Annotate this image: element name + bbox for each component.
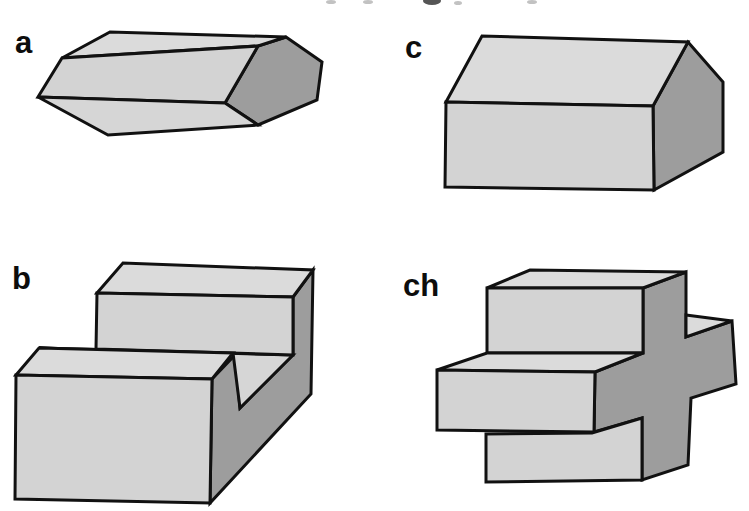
cross-prism-horizontal-front-face: [437, 370, 595, 432]
roof-prism: [445, 36, 723, 190]
cross-prism-vertical-upper-front-face: [487, 288, 643, 353]
notched-block-back-front-face: [96, 293, 293, 355]
notched-block-front-front-face: [15, 375, 212, 503]
crystal-forms-figure: a b c ch: [0, 0, 749, 511]
notched-block-back-top-face: [97, 263, 313, 297]
cropped-caption-artifact: [326, 0, 537, 5]
hexagonal-prism-lower-front-face: [38, 97, 258, 135]
cross-prism: [437, 270, 736, 482]
panel-label-b: b: [12, 263, 31, 294]
roof-prism-front-face: [445, 102, 654, 190]
notched-block: [15, 263, 313, 503]
panel-label-c: c: [405, 32, 422, 63]
roof-prism-roof-face: [446, 36, 688, 106]
shapes-canvas: [0, 0, 749, 511]
panel-label-ch: ch: [403, 270, 439, 301]
hexagonal-prism: [38, 32, 322, 135]
panel-label-a: a: [15, 27, 32, 58]
